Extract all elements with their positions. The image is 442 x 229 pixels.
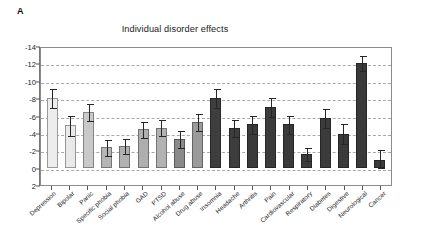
error-bar bbox=[289, 117, 290, 134]
bar-slot bbox=[261, 48, 279, 185]
error-bar bbox=[70, 117, 71, 136]
bar bbox=[156, 128, 167, 168]
bar bbox=[138, 129, 149, 167]
x-axis-label-cell: Cancer bbox=[372, 190, 390, 229]
bar bbox=[247, 124, 258, 167]
y-axis-tick-label: -2 bbox=[29, 147, 36, 156]
error-bar bbox=[325, 110, 326, 128]
bar-slot bbox=[371, 48, 389, 185]
bar bbox=[229, 128, 240, 168]
x-axis-label-cell: Bipolar bbox=[60, 190, 78, 229]
bar-slot bbox=[207, 48, 225, 185]
bar-slot bbox=[280, 48, 298, 185]
panel-label: A bbox=[17, 6, 24, 16]
error-bar bbox=[161, 121, 162, 136]
bar bbox=[192, 122, 203, 168]
bar-slot bbox=[152, 48, 170, 185]
error-bar bbox=[362, 57, 363, 71]
bar-series bbox=[41, 48, 391, 185]
x-axis-tick-label: Pain bbox=[263, 190, 277, 204]
error-bar bbox=[107, 141, 108, 156]
error-bar bbox=[343, 125, 344, 144]
bar bbox=[83, 112, 94, 168]
bar bbox=[174, 139, 185, 168]
x-axis-label-cell: Neurological bbox=[353, 190, 371, 229]
bar bbox=[301, 154, 312, 167]
bar bbox=[47, 98, 58, 168]
bar bbox=[338, 134, 349, 168]
x-axis-tick-label: GAD bbox=[134, 190, 149, 205]
bar-slot bbox=[243, 48, 261, 185]
bar-slot bbox=[316, 48, 334, 185]
x-axis-label-cell: GAD bbox=[134, 190, 152, 229]
plot-area bbox=[40, 47, 392, 186]
bar-slot bbox=[79, 48, 97, 185]
bar bbox=[65, 125, 76, 168]
error-bar bbox=[180, 132, 181, 148]
bar-slot bbox=[170, 48, 188, 185]
y-axis-tick-label: -4 bbox=[29, 129, 36, 138]
error-bar bbox=[125, 140, 126, 154]
chart-title: Individual disorder effects bbox=[0, 24, 396, 34]
error-bar bbox=[380, 151, 381, 168]
error-bar bbox=[198, 115, 199, 132]
y-axis: -14-12-10-8-6-4-202 bbox=[0, 47, 40, 186]
x-axis-label-cell: Depression bbox=[42, 190, 60, 229]
x-axis-labels: DepressionBipolarPanicSpecific phobiaSoc… bbox=[40, 190, 392, 229]
y-axis-tick-label: -8 bbox=[29, 95, 36, 104]
bar-slot bbox=[116, 48, 134, 185]
bar bbox=[356, 63, 367, 167]
bar bbox=[374, 160, 385, 168]
bar bbox=[210, 98, 221, 168]
bar bbox=[101, 147, 112, 167]
bar bbox=[283, 124, 294, 167]
x-axis-label-cell: Headache bbox=[225, 190, 243, 229]
bar-slot bbox=[98, 48, 116, 185]
bar-slot bbox=[43, 48, 61, 185]
x-axis: DepressionBipolarPanicSpecific phobiaSoc… bbox=[40, 186, 392, 229]
bar bbox=[320, 118, 331, 168]
bar-slot bbox=[61, 48, 79, 185]
error-bar bbox=[216, 90, 217, 107]
error-bar bbox=[89, 105, 90, 121]
bar bbox=[119, 146, 130, 168]
bar-slot bbox=[225, 48, 243, 185]
bar-slot bbox=[298, 48, 316, 185]
y-axis-tick-label: -10 bbox=[25, 77, 36, 86]
y-axis-tick-label: -14 bbox=[25, 43, 36, 52]
bar bbox=[265, 107, 276, 168]
y-axis-tick-label: -12 bbox=[25, 60, 36, 69]
error-bar bbox=[307, 149, 308, 161]
bar-slot bbox=[134, 48, 152, 185]
error-bar bbox=[52, 90, 53, 107]
x-axis-tick-label: Depression bbox=[28, 190, 57, 217]
error-bar bbox=[271, 99, 272, 116]
y-axis-tick-label: -6 bbox=[29, 112, 36, 121]
error-bar bbox=[252, 117, 253, 134]
bar-slot bbox=[334, 48, 352, 185]
x-axis-label-cell: Arthritis bbox=[243, 190, 261, 229]
figure-panel-a: A Individual disorder effects -14-12-10-… bbox=[0, 0, 442, 229]
error-bar bbox=[143, 123, 144, 139]
bar-slot bbox=[352, 48, 370, 185]
error-bar bbox=[234, 121, 235, 138]
bar-slot bbox=[189, 48, 207, 185]
x-axis-label-cell: Social phobia bbox=[115, 190, 133, 229]
